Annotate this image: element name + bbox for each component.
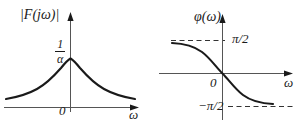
magnitude-y-axis-label: |F(jω)| <box>20 8 59 22</box>
magnitude-spectrum-panel: |F(jω)| ω 0 1 α <box>0 0 153 127</box>
magnitude-origin-label: 0 <box>59 104 66 117</box>
magnitude-x-axis-label: ω <box>129 108 138 121</box>
peak-numerator: 1 <box>55 38 65 51</box>
phase-x-axis <box>159 70 293 76</box>
magnitude-peak-value-label: 1 α <box>55 38 65 65</box>
phase-x-axis-label: ω <box>284 76 293 89</box>
phase-plot-svg <box>153 0 307 127</box>
magnitude-y-axis <box>67 12 73 112</box>
phase-positive-tick-label: π/2 <box>232 32 249 45</box>
phase-y-axis-label: φ(ω) <box>194 10 221 24</box>
phase-negative-tick-label: −π/2 <box>198 99 223 112</box>
figure-container: |F(jω)| ω 0 1 α <box>0 0 307 127</box>
magnitude-x-axis <box>4 104 139 110</box>
peak-fraction: 1 α <box>55 38 65 65</box>
phase-origin-label: 0 <box>210 76 217 89</box>
peak-denominator: α <box>55 53 65 66</box>
phase-spectrum-panel: φ(ω) ω 0 π/2 −π/2 <box>153 0 307 127</box>
